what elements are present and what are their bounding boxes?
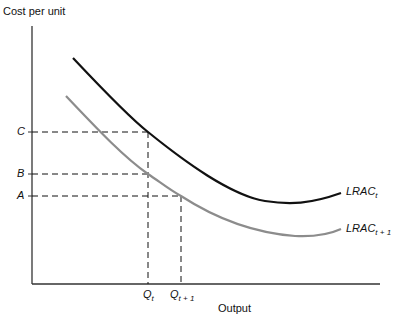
- lrac-t1-curve: [66, 96, 341, 236]
- curve-label-lrac-t1: LRACt + 1: [346, 222, 391, 237]
- y-axis-label: Cost per unit: [3, 5, 65, 17]
- curve-label-lrac-t: LRACt: [346, 185, 378, 200]
- tick-label-qt: Qt: [143, 288, 154, 303]
- tick-label-qt1: Qt + 1: [170, 288, 194, 303]
- guide-lines: [32, 132, 181, 284]
- tick-label-a: A: [17, 189, 24, 201]
- x-axis-label: Output: [218, 302, 251, 314]
- cost-curve-diagram: [0, 0, 398, 325]
- tick-label-b: B: [17, 167, 24, 179]
- tick-label-c: C: [17, 125, 25, 137]
- lrac-t-curve: [73, 58, 341, 203]
